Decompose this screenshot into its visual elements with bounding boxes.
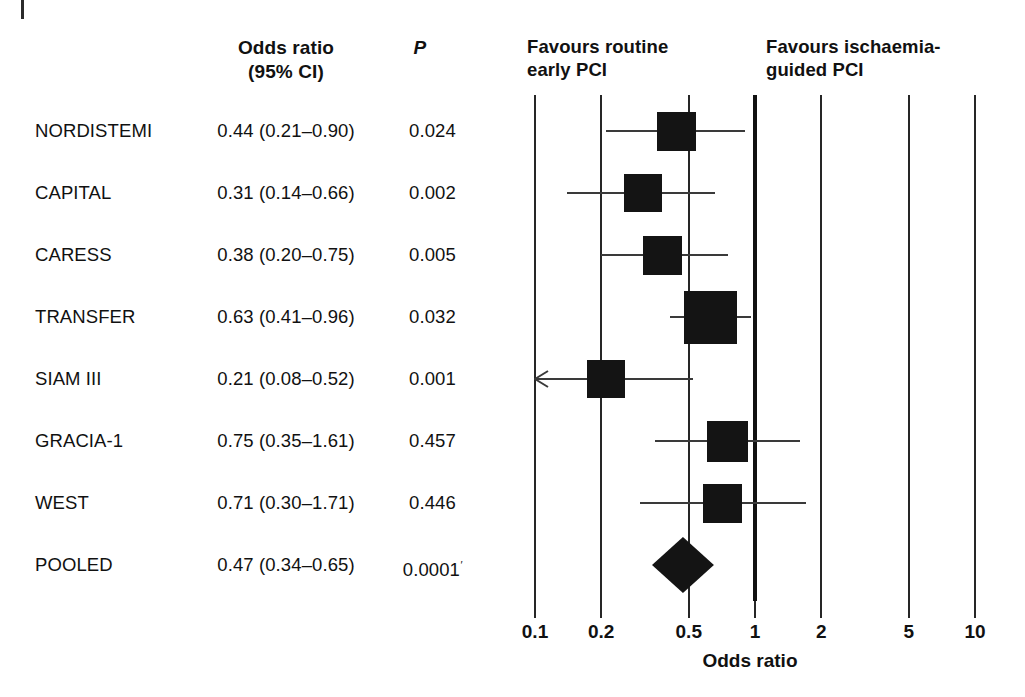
confidence-interval-line [655, 440, 801, 442]
p-value: 0.024 [385, 120, 480, 142]
pooled-estimate-diamond [652, 537, 714, 593]
effect-estimate-square [624, 174, 662, 212]
column-header-odds-ratio-line1: Odds ratio [196, 36, 376, 60]
p-value: 0.005 [385, 244, 480, 266]
odds-ratio-value: 0.71 (0.30–1.71) [186, 492, 386, 514]
p-value: 0.001 [385, 368, 480, 390]
p-value: 0.457 [385, 430, 480, 452]
axis-tick [534, 601, 536, 618]
axis-tick-label: 0.1 [505, 621, 565, 643]
odds-ratio-value: 0.75 (0.35–1.61) [186, 430, 386, 452]
gridline [534, 95, 536, 601]
axis-tick [688, 601, 690, 618]
gridline [908, 95, 910, 601]
effect-estimate-square [707, 421, 748, 462]
column-header-odds-ratio-line2: (95% CI) [196, 60, 376, 84]
axis-tick [974, 601, 976, 618]
axis-tick-label: 0.5 [659, 621, 719, 643]
confidence-interval-line [567, 192, 715, 194]
odds-ratio-value: 0.38 (0.20–0.75) [186, 244, 386, 266]
p-value-footnote-marker: ′ [460, 559, 462, 571]
effect-estimate-square [587, 360, 625, 398]
axis-tick-label: 0.2 [571, 621, 631, 643]
effect-estimate-square [643, 236, 682, 275]
p-value: 0.446 [385, 492, 480, 514]
axis-tick [820, 601, 822, 618]
confidence-interval-line [670, 316, 751, 318]
axis-tick-label: 10 [945, 621, 1005, 643]
confidence-interval-line [535, 378, 693, 380]
odds-ratio-value: 0.31 (0.14–0.66) [186, 182, 386, 204]
gridline [600, 95, 602, 601]
confidence-interval-line [606, 130, 745, 132]
effect-estimate-square [684, 291, 737, 344]
axis-tick [754, 601, 756, 618]
favours-left-line2: early PCI [527, 58, 742, 81]
axis-tick-label: 1 [725, 621, 785, 643]
gridline [974, 95, 976, 601]
p-value: 0.002 [385, 182, 480, 204]
axis-title: Odds ratio [650, 650, 850, 672]
odds-ratio-value: 0.21 (0.08–0.52) [186, 368, 386, 390]
axis-tick [908, 601, 910, 618]
effect-estimate-square [703, 484, 742, 523]
forest-plot-canvas: 0.10.20.512510 [0, 0, 1025, 697]
axis-tick [600, 601, 602, 618]
effect-estimate-square [657, 112, 696, 151]
column-header-odds-ratio: Odds ratio (95% CI) [196, 36, 376, 84]
forest-plot-figure: Odds ratio (95% CI) P Favours routine ea… [0, 0, 1025, 697]
gridline [820, 95, 822, 601]
null-effect-line [753, 95, 757, 601]
favours-left-line1: Favours routine [527, 35, 742, 58]
odds-ratio-value: 0.44 (0.21–0.90) [186, 120, 386, 142]
odds-ratio-value: 0.47 (0.34–0.65) [186, 554, 386, 576]
favours-right-line2: guided PCI [766, 58, 1011, 81]
column-header-p-value: P [390, 36, 450, 60]
favours-right-line1: Favours ischaemia- [766, 35, 1011, 58]
axis-tick-label: 2 [791, 621, 851, 643]
gridline [688, 95, 690, 601]
p-value: 0.032 [385, 306, 480, 328]
p-value: 0.0001′ [385, 554, 480, 581]
favours-left-label: Favours routine early PCI [527, 35, 742, 81]
axis-tick-label: 5 [879, 621, 939, 643]
favours-right-label: Favours ischaemia- guided PCI [766, 35, 1011, 81]
odds-ratio-value: 0.63 (0.41–0.96) [186, 306, 386, 328]
confidence-interval-line [601, 254, 727, 256]
ci-left-arrowhead [534, 369, 554, 389]
confidence-interval-line [640, 502, 806, 504]
page-edge-mark [21, 0, 24, 19]
